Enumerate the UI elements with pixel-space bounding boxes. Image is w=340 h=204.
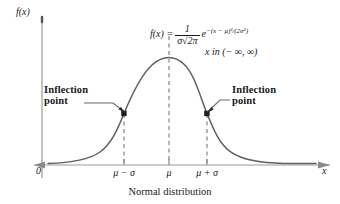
pdf-formula: f(x) =1σ√2πe−(x − μ)²/(2σ²) xyxy=(150,24,248,46)
formula-numerator: 1 xyxy=(175,24,199,35)
formula-lhs: f(x) = xyxy=(150,28,173,39)
y-axis-label: f(x) xyxy=(16,7,30,18)
figure-caption: Normal distribution xyxy=(0,186,340,197)
inflection-point-label-right: Inflection point xyxy=(232,84,276,106)
normal-distribution-figure: f(x) x 0 Inflection point Inflection poi… xyxy=(0,0,340,204)
inflection-left-line2: point xyxy=(44,95,68,106)
x-axis-label: x xyxy=(322,166,326,177)
inflection-point-label-left: Inflection point xyxy=(44,84,88,106)
normal-curve xyxy=(48,58,316,164)
x-tick-label-mu: μ xyxy=(166,168,171,179)
formula-exponent: −(x − μ)²/(2σ²) xyxy=(206,27,248,35)
x-tick-label-mu-minus-sigma: μ − σ xyxy=(113,168,135,179)
inflection-right-line1: Inflection xyxy=(232,84,276,95)
inflection-left-line1: Inflection xyxy=(44,84,88,95)
leader-line-left xyxy=(84,103,125,112)
formula-domain-statement: x in (− ∞, ∞) xyxy=(205,47,257,58)
origin-label: 0 xyxy=(36,166,41,177)
formula-denominator: σ√2π xyxy=(175,36,199,47)
formula-fraction: 1σ√2π xyxy=(175,24,199,46)
x-tick-label-mu-plus-sigma: μ + σ xyxy=(196,168,218,179)
inflection-right-line2: point xyxy=(232,95,256,106)
